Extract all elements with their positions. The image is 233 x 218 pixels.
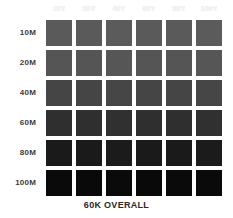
swatch-20m-10y	[46, 50, 72, 76]
swatch-40m-20y	[76, 80, 102, 106]
swatch-80m-40y	[106, 140, 132, 166]
row-label-40m: 40M	[0, 80, 42, 106]
swatch-100m-100y	[196, 170, 222, 196]
swatch-10m-60y	[136, 20, 162, 46]
column-header-60y: 60Y	[136, 1, 162, 17]
swatch-100m-80y	[166, 170, 192, 196]
swatch-row	[46, 140, 222, 166]
swatch-80m-60y	[136, 140, 162, 166]
swatch-20m-60y	[136, 50, 162, 76]
row-label-80m: 80M	[0, 140, 42, 166]
swatch-80m-20y	[76, 140, 102, 166]
swatch-60m-10y	[46, 110, 72, 136]
swatch-100m-20y	[76, 170, 102, 196]
row-label-10m: 10M	[0, 20, 42, 46]
swatch-100m-60y	[136, 170, 162, 196]
ink-density-chart: 10Y 20Y 40Y 60Y 80Y 100Y 10M 20M 40M 60M…	[0, 0, 233, 218]
swatch-row	[46, 20, 222, 46]
chart-caption: 60K OVERALL	[0, 200, 233, 210]
swatch-80m-100y	[196, 140, 222, 166]
swatch-grid	[46, 20, 222, 196]
swatch-60m-20y	[76, 110, 102, 136]
swatch-60m-60y	[136, 110, 162, 136]
column-header-10y: 10Y	[46, 1, 72, 17]
swatch-10m-20y	[76, 20, 102, 46]
swatch-60m-80y	[166, 110, 192, 136]
swatch-10m-10y	[46, 20, 72, 46]
swatch-10m-80y	[166, 20, 192, 46]
swatch-40m-10y	[46, 80, 72, 106]
row-label-100m: 100M	[0, 170, 42, 196]
swatch-10m-40y	[106, 20, 132, 46]
swatch-40m-40y	[106, 80, 132, 106]
swatch-60m-100y	[196, 110, 222, 136]
column-header-20y: 20Y	[76, 1, 102, 17]
swatch-60m-40y	[106, 110, 132, 136]
column-header-40y: 40Y	[106, 1, 132, 17]
row-label-20m: 20M	[0, 50, 42, 76]
swatch-20m-20y	[76, 50, 102, 76]
swatch-100m-40y	[106, 170, 132, 196]
swatch-row	[46, 110, 222, 136]
swatch-100m-10y	[46, 170, 72, 196]
swatch-80m-80y	[166, 140, 192, 166]
column-header-100y: 100Y	[196, 1, 222, 17]
swatch-row	[46, 80, 222, 106]
swatch-40m-100y	[196, 80, 222, 106]
column-header-80y: 80Y	[166, 1, 192, 17]
swatch-20m-80y	[166, 50, 192, 76]
swatch-20m-40y	[106, 50, 132, 76]
row-label-60m: 60M	[0, 110, 42, 136]
column-header-strip: 10Y 20Y 40Y 60Y 80Y 100Y	[46, 1, 222, 17]
swatch-80m-10y	[46, 140, 72, 166]
swatch-10m-100y	[196, 20, 222, 46]
swatch-row	[46, 170, 222, 196]
swatch-20m-100y	[196, 50, 222, 76]
swatch-40m-60y	[136, 80, 162, 106]
swatch-row	[46, 50, 222, 76]
row-label-column: 10M 20M 40M 60M 80M 100M	[0, 20, 42, 196]
swatch-40m-80y	[166, 80, 192, 106]
